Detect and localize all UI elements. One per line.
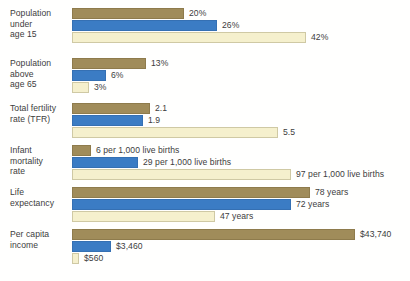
bar-value-label: 42% [311, 32, 328, 43]
bar-row: 6 per 1,000 live births [72, 145, 410, 156]
bar-series-area: 2.11.95.5 [72, 103, 410, 139]
metric-label-line: Per capita [10, 229, 70, 240]
bar-row: 42% [72, 32, 410, 43]
bar-blue [72, 199, 291, 210]
bar-value-label: 47 years [220, 211, 253, 222]
bar-row: 97 per 1,000 live births [72, 169, 410, 180]
metric-label-line: Infant [10, 145, 70, 156]
bar-value-label: 2.1 [155, 103, 167, 114]
metric-label: Infantmortalityrate [10, 145, 70, 177]
bar-row: 26% [72, 20, 410, 31]
bar-value-label: 1.9 [148, 115, 160, 126]
bar-tan [72, 145, 91, 156]
bar-series-area: $43,740$3,460$560 [72, 229, 410, 265]
bar-cream [72, 211, 215, 222]
metric-label-line: mortality [10, 156, 70, 167]
metric-label-line: Population [10, 58, 70, 69]
bar-row: 1.9 [72, 115, 410, 126]
bar-row: $43,740 [72, 229, 410, 240]
bar-cream [72, 253, 79, 264]
metric-label-line: Total fertility [10, 103, 70, 114]
bar-value-label: 20% [189, 8, 206, 19]
bar-value-label: 6 per 1,000 live births [96, 145, 179, 156]
bar-value-label: 5.5 [283, 127, 295, 138]
metric-label-line: rate (TFR) [10, 114, 70, 125]
bar-blue [72, 115, 143, 126]
metric-label: Populationaboveage 65 [10, 58, 70, 90]
bar-row: 78 years [72, 187, 410, 198]
bar-cream [72, 32, 306, 43]
metric-label: Total fertilityrate (TFR) [10, 103, 70, 124]
metric-label-line: rate [10, 166, 70, 177]
bar-row: 29 per 1,000 live births [72, 157, 410, 168]
bar-row: 13% [72, 58, 410, 69]
bar-row: $560 [72, 253, 410, 264]
metric-label-line: under [10, 19, 70, 30]
metric-label: Lifeexpectancy [10, 187, 70, 208]
metric-label: Populationunderage 15 [10, 8, 70, 40]
bar-row: 2.1 [72, 103, 410, 114]
bar-row: 20% [72, 8, 410, 19]
bar-row: 5.5 [72, 127, 410, 138]
metric-label-line: Population [10, 8, 70, 19]
bar-row: 6% [72, 70, 410, 81]
bar-tan [72, 8, 184, 19]
bar-cream [72, 82, 89, 93]
bar-value-label: 78 years [315, 187, 348, 198]
bar-value-label: $560 [84, 253, 103, 264]
bar-tan [72, 229, 355, 240]
bar-tan [72, 103, 150, 114]
bar-row: $3,460 [72, 241, 410, 252]
bar-tan [72, 58, 146, 69]
bar-series-area: 20%26%42% [72, 8, 410, 44]
metric-label-line: expectancy [10, 198, 70, 209]
bar-value-label: 6% [111, 70, 124, 81]
metric-label-line: age 15 [10, 29, 70, 40]
bar-value-label: 26% [222, 20, 239, 31]
bar-blue [72, 70, 106, 81]
metric-label-line: above [10, 69, 70, 80]
bar-row: 47 years [72, 211, 410, 222]
metric-label-line: income [10, 240, 70, 251]
bar-cream [72, 169, 291, 180]
demographic-comparison-bar-chart: Populationunderage 1520%26%42%Population… [0, 0, 410, 281]
bar-value-label: 72 years [296, 199, 329, 210]
metric-label: Per capitaincome [10, 229, 70, 250]
bar-value-label: 97 per 1,000 live births [296, 169, 384, 180]
bar-row: 72 years [72, 199, 410, 210]
bar-series-area: 78 years72 years47 years [72, 187, 410, 223]
bar-blue [72, 157, 138, 168]
bar-series-area: 6 per 1,000 live births29 per 1,000 live… [72, 145, 410, 181]
bar-value-label: $43,740 [360, 229, 391, 240]
metric-label-line: age 65 [10, 79, 70, 90]
bar-blue [72, 241, 111, 252]
bar-value-label: 3% [94, 82, 107, 93]
bar-cream [72, 127, 278, 138]
bar-blue [72, 20, 217, 31]
bar-value-label: 13% [151, 58, 168, 69]
bar-row: 3% [72, 82, 410, 93]
bar-series-area: 13%6%3% [72, 58, 410, 94]
bar-tan [72, 187, 310, 198]
bar-value-label: $3,460 [116, 241, 143, 252]
metric-label-line: Life [10, 187, 70, 198]
bar-value-label: 29 per 1,000 live births [143, 157, 231, 168]
